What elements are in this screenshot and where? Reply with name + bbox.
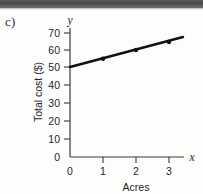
y-ticklabel-50: 50	[48, 61, 60, 73]
data-point-1	[101, 57, 105, 61]
line-chart: 70 60 50 40 30 20 10 0 0 1 2 3 y x Acres…	[0, 0, 203, 194]
x-ticklabel-1: 1	[100, 165, 106, 177]
x-ticklabel-3: 3	[166, 165, 172, 177]
data-point-2	[134, 48, 138, 52]
x-ticklabel-2: 2	[133, 165, 139, 177]
y-axis-title: Total cost ($)	[32, 62, 44, 122]
y-ticklabel-30: 30	[48, 97, 60, 109]
y-ticklabel-70: 70	[48, 27, 60, 39]
x-axis-variable-label: x	[188, 151, 195, 163]
y-ticklabel-0: 0	[54, 151, 60, 163]
y-ticklabel-10: 10	[48, 133, 60, 145]
y-ticklabel-40: 40	[48, 79, 60, 91]
data-point-3	[167, 40, 171, 44]
data-series-line	[70, 37, 183, 67]
figure-panel: c) 70 60 50 40 30 20 10 0 0 1 2 3 y x	[0, 0, 203, 194]
y-ticklabel-20: 20	[48, 115, 60, 127]
x-axis-title: Acres	[123, 181, 150, 193]
y-axis-variable-label: y	[66, 14, 73, 27]
y-ticklabel-60: 60	[48, 44, 60, 56]
x-ticklabel-0: 0	[67, 165, 73, 177]
